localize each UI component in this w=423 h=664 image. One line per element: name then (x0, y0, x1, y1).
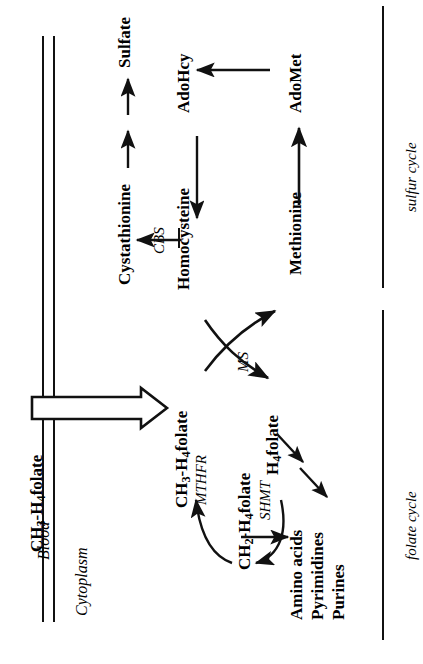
product-amino-acids: Amino acids (288, 530, 305, 620)
metabolite-ch3-h4folate: CH3-H4folate (173, 411, 192, 508)
ch2h4folate-c: folate (235, 473, 254, 514)
ch3h4folate-sub2: 4 (179, 451, 193, 457)
ch3h4folate-ext-sub1: 3 (34, 520, 48, 526)
h4folate-a: H (263, 462, 282, 475)
metabolite-homocysteine: Homocysteine (175, 188, 192, 290)
enzyme-label-mthfr: MTHFR (194, 455, 209, 505)
metabolite-adomet: AdoMet (287, 54, 304, 113)
compartment-label-cytoplasm: Cytoplasm (74, 548, 90, 616)
membrane-line-inner (53, 36, 55, 622)
arrow-h4folate-to-products-2 (300, 468, 327, 497)
h4folate-c: folate (263, 415, 282, 456)
ch3h4folate-ext-a: CH (27, 527, 46, 553)
ch3h4folate-ext-b: -H (27, 501, 46, 520)
ch3h4folate-ext-sub2: 4 (34, 495, 48, 501)
cycle-label-folate: folate cycle (404, 491, 419, 560)
metabolite-h4folate: H4folate (264, 415, 283, 475)
h4folate-sub1: 4 (270, 456, 284, 462)
enzyme-label-ms: MS (236, 352, 251, 372)
ch2h4folate-b: -H (235, 519, 254, 538)
metabolite-adohcy: AdoHcy (175, 54, 192, 114)
product-purines: Purines (330, 564, 347, 620)
ch3h4folate-b: -H (172, 457, 191, 476)
bracket-folate-cycle (382, 310, 384, 640)
bracket-sulfur-cycle (382, 6, 384, 288)
product-pyrimidines: Pyrimidines (309, 532, 326, 620)
ch2h4folate-a: CH (235, 545, 254, 571)
enzyme-label-cbs: CBS (152, 227, 167, 254)
ch3h4folate-ext-c: folate (27, 455, 46, 496)
metabolite-sulfate: Sulfate (116, 17, 133, 68)
ch3h4folate-a: CH (172, 483, 191, 509)
ch3h4folate-sub1: 3 (179, 476, 193, 482)
metabolite-ch3-h4folate-extracellular: CH3-H4folate (28, 455, 47, 552)
arrow-mthfr-ch2-to-ch3-h4folate (196, 500, 232, 563)
ch2h4folate-sub2: 4 (242, 513, 256, 519)
ch2h4folate-sub1: 2 (242, 538, 256, 544)
metabolite-ch2-h4folate: CH2-H4folate (236, 473, 255, 570)
metabolite-methionine: Methionine (287, 192, 304, 275)
pathway-diagram-canvas: Blood Cytoplasm CH3-H4folate CH3-H4folat… (0, 0, 423, 664)
cycle-label-sulfur: sulfur cycle (404, 142, 419, 212)
enzyme-label-shmt: SHMT (258, 481, 273, 520)
ch3h4folate-c: folate (172, 411, 191, 452)
reaction-arrow-layer (0, 0, 423, 664)
metabolite-cystathionine: Cystathionine (116, 184, 133, 285)
